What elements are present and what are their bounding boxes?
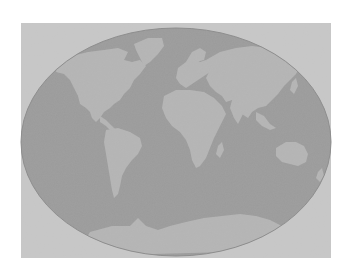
- world-map-svg: [0, 0, 354, 280]
- world-map-figure: elliptical world map: [0, 0, 354, 280]
